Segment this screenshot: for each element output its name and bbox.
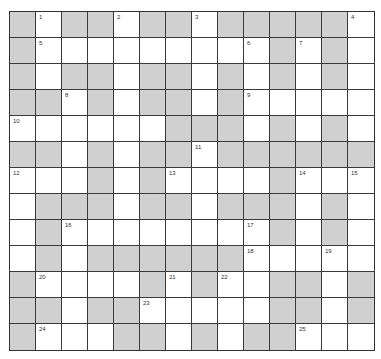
answer-cell[interactable] <box>36 116 62 142</box>
answer-cell[interactable] <box>140 38 166 64</box>
answer-cell[interactable] <box>62 272 88 298</box>
answer-cell[interactable] <box>244 272 270 298</box>
answer-cell[interactable]: 12 <box>10 168 36 194</box>
answer-cell[interactable] <box>166 298 192 324</box>
answer-cell[interactable]: 13 <box>166 168 192 194</box>
answer-cell[interactable] <box>322 324 348 350</box>
answer-cell[interactable] <box>218 168 244 194</box>
answer-cell[interactable] <box>244 116 270 142</box>
answer-cell[interactable] <box>88 116 114 142</box>
answer-cell[interactable] <box>296 194 322 220</box>
answer-cell[interactable]: 11 <box>192 142 218 168</box>
answer-cell[interactable] <box>10 194 36 220</box>
answer-cell[interactable] <box>114 38 140 64</box>
answer-cell[interactable]: 16 <box>62 220 88 246</box>
answer-cell[interactable]: 3 <box>192 12 218 38</box>
answer-cell[interactable] <box>218 324 244 350</box>
answer-cell[interactable] <box>10 220 36 246</box>
answer-cell[interactable] <box>140 116 166 142</box>
answer-cell[interactable] <box>348 64 374 90</box>
answer-cell[interactable] <box>296 64 322 90</box>
answer-cell[interactable] <box>62 298 88 324</box>
answer-cell[interactable] <box>62 246 88 272</box>
answer-cell[interactable]: 18 <box>244 246 270 272</box>
answer-cell[interactable]: 22 <box>218 272 244 298</box>
answer-cell[interactable]: 17 <box>244 220 270 246</box>
answer-cell[interactable] <box>114 272 140 298</box>
answer-cell[interactable]: 10 <box>10 116 36 142</box>
answer-cell[interactable] <box>62 116 88 142</box>
answer-cell[interactable] <box>218 220 244 246</box>
answer-cell[interactable] <box>348 324 374 350</box>
answer-cell[interactable]: 24 <box>36 324 62 350</box>
answer-cell[interactable] <box>10 246 36 272</box>
answer-cell[interactable]: 20 <box>36 272 62 298</box>
answer-cell[interactable] <box>166 38 192 64</box>
answer-cell[interactable] <box>322 272 348 298</box>
block-cell <box>348 142 374 168</box>
answer-cell[interactable]: 4 <box>348 12 374 38</box>
answer-cell[interactable] <box>348 220 374 246</box>
answer-cell[interactable]: 6 <box>244 38 270 64</box>
answer-cell[interactable] <box>296 220 322 246</box>
answer-cell[interactable]: 7 <box>296 38 322 64</box>
answer-cell[interactable] <box>192 220 218 246</box>
answer-cell[interactable] <box>218 298 244 324</box>
answer-cell[interactable] <box>322 298 348 324</box>
answer-cell[interactable] <box>88 324 114 350</box>
answer-cell[interactable] <box>296 90 322 116</box>
answer-cell[interactable] <box>166 220 192 246</box>
answer-cell[interactable]: 1 <box>36 12 62 38</box>
answer-cell[interactable] <box>348 90 374 116</box>
answer-cell[interactable]: 21 <box>166 272 192 298</box>
answer-cell[interactable] <box>114 142 140 168</box>
answer-cell[interactable] <box>348 38 374 64</box>
answer-cell[interactable]: 2 <box>114 12 140 38</box>
answer-cell[interactable]: 5 <box>36 38 62 64</box>
answer-cell[interactable] <box>270 246 296 272</box>
answer-cell[interactable]: 8 <box>62 90 88 116</box>
answer-cell[interactable] <box>192 298 218 324</box>
answer-cell[interactable] <box>62 324 88 350</box>
answer-cell[interactable] <box>322 90 348 116</box>
answer-cell[interactable] <box>192 90 218 116</box>
answer-cell[interactable]: 15 <box>348 168 374 194</box>
answer-cell[interactable] <box>36 168 62 194</box>
answer-cell[interactable] <box>114 64 140 90</box>
answer-cell[interactable] <box>244 298 270 324</box>
answer-cell[interactable]: 9 <box>244 90 270 116</box>
answer-cell[interactable] <box>296 116 322 142</box>
answer-cell[interactable]: 14 <box>296 168 322 194</box>
answer-cell[interactable] <box>166 324 192 350</box>
answer-cell[interactable] <box>114 116 140 142</box>
answer-cell[interactable]: 19 <box>322 246 348 272</box>
answer-cell[interactable] <box>322 168 348 194</box>
answer-cell[interactable]: 25 <box>296 324 322 350</box>
answer-cell[interactable] <box>218 38 244 64</box>
answer-cell[interactable] <box>62 38 88 64</box>
answer-cell[interactable] <box>114 194 140 220</box>
answer-cell[interactable] <box>270 90 296 116</box>
answer-cell[interactable] <box>348 116 374 142</box>
answer-cell[interactable] <box>62 168 88 194</box>
answer-cell[interactable] <box>348 194 374 220</box>
answer-cell[interactable] <box>36 64 62 90</box>
answer-cell[interactable] <box>244 168 270 194</box>
answer-cell[interactable] <box>140 220 166 246</box>
answer-cell[interactable] <box>296 246 322 272</box>
answer-cell[interactable] <box>192 38 218 64</box>
answer-cell[interactable] <box>88 220 114 246</box>
answer-cell[interactable] <box>192 64 218 90</box>
answer-cell[interactable] <box>244 64 270 90</box>
answer-cell[interactable] <box>62 142 88 168</box>
answer-cell[interactable] <box>348 246 374 272</box>
answer-cell[interactable] <box>192 194 218 220</box>
answer-cell[interactable] <box>114 90 140 116</box>
answer-cell[interactable] <box>114 168 140 194</box>
answer-cell[interactable]: 23 <box>140 298 166 324</box>
answer-cell[interactable] <box>88 272 114 298</box>
answer-cell[interactable] <box>114 220 140 246</box>
answer-cell[interactable] <box>88 38 114 64</box>
answer-cell[interactable] <box>192 168 218 194</box>
block-cell <box>88 12 114 38</box>
